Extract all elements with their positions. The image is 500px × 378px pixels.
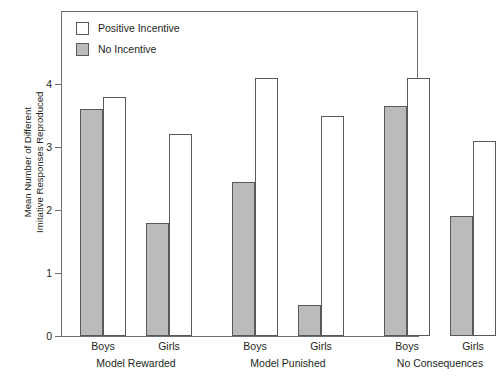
bar-model-rewarded-girls-positive-incentive [169, 134, 192, 336]
bar-no-consequences-boys-positive-incentive [407, 78, 430, 336]
bar-no-consequences-boys-no-incentive [384, 106, 407, 336]
x-axis-group-label: Model Rewarded [76, 358, 196, 369]
bar-model-punished-girls-positive-incentive [321, 116, 344, 337]
y-axis-tick-label: 3 [26, 142, 52, 153]
legend-item-label: Positive Incentive [98, 23, 180, 34]
legend-item: Positive Incentive [76, 19, 226, 37]
bar-no-consequences-girls-positive-incentive [473, 141, 496, 336]
x-axis-sub-label: Boys [225, 341, 285, 352]
legend: Positive IncentiveNo Incentive [76, 19, 226, 61]
legend-item-label: No Incentive [98, 44, 156, 55]
bar-model-rewarded-boys-positive-incentive [103, 97, 126, 336]
x-axis-sub-label: Girls [291, 341, 351, 352]
legend-swatch-icon [76, 43, 89, 56]
y-axis-tick [55, 210, 62, 211]
x-axis-line [61, 336, 419, 337]
y-axis-tick-label: 4 [26, 79, 52, 90]
x-axis-sub-label: Girls [443, 341, 500, 352]
y-axis-tick [55, 336, 62, 337]
bar-model-punished-girls-no-incentive [298, 305, 321, 337]
legend-swatch-icon [76, 22, 89, 35]
x-axis-sub-label: Boys [73, 341, 133, 352]
y-axis-tick [55, 273, 62, 274]
bar-model-punished-boys-no-incentive [232, 182, 255, 336]
bar-model-rewarded-girls-no-incentive [146, 223, 169, 336]
y-axis-tick [55, 147, 62, 148]
legend-item: No Incentive [76, 40, 226, 58]
bar-model-rewarded-boys-no-incentive [80, 109, 103, 336]
x-axis-group-label: No Consequences [380, 358, 500, 369]
y-axis-tick-label: 2 [26, 205, 52, 216]
y-axis-tick-label: 1 [26, 268, 52, 279]
y-axis-tick [55, 84, 62, 85]
bar-no-consequences-girls-no-incentive [450, 216, 473, 336]
x-axis-group-label: Model Punished [228, 358, 348, 369]
y-axis-tick-label: 0 [26, 331, 52, 342]
x-axis-sub-label: Boys [377, 341, 437, 352]
x-axis-sub-label: Girls [139, 341, 199, 352]
bar-model-punished-boys-positive-incentive [255, 78, 278, 336]
